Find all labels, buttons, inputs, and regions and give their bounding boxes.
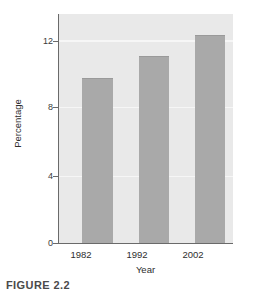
figure-caption: FIGURE 2.2 [6,279,70,291]
ytick-label-0: 0 [13,239,53,248]
plot-area [58,14,233,244]
xtick-label-1992: 1992 [107,250,167,260]
bar-2002 [195,35,225,244]
xtick-label-1982: 1982 [51,250,111,260]
bar-1982 [82,78,113,243]
x-axis-title: Year [58,264,233,275]
xtick-label-2002: 2002 [163,250,223,260]
ytick-label-12: 12 [13,37,53,46]
bar-1992 [139,56,169,243]
y-axis-title: Percentage [12,69,23,179]
